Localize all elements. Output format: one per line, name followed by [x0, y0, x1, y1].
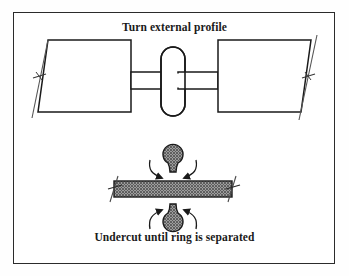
lower-ring-shape: [163, 204, 183, 232]
figure-root: Turn external profile: [0, 0, 349, 276]
section-bar-body: [114, 181, 232, 197]
lower-diagram-group: [108, 144, 240, 231]
upper-ring-section: [163, 144, 183, 172]
right-break-mark: [226, 176, 240, 202]
left-workpiece-block: [38, 40, 131, 112]
caption-undercut-until-ring-is-separated: Undercut until ring is separated: [0, 231, 349, 243]
right-shaft-body: [178, 72, 218, 89]
right-shaft: [178, 72, 218, 89]
left-block-outline: [38, 40, 131, 112]
upper-right-feed-arrow: [184, 160, 197, 178]
right-workpiece-block: [218, 40, 311, 112]
lower-left-feed-arrow: [150, 210, 163, 229]
lower-ring-section: [163, 204, 183, 232]
center-ring-inner-mask: [163, 74, 183, 88]
lower-right-feed-arrow: [184, 210, 197, 229]
right-block-outline: [218, 40, 311, 112]
upper-ring-shape: [163, 144, 183, 172]
upper-left-feed-arrow: [150, 160, 163, 178]
section-bar: [114, 181, 232, 197]
